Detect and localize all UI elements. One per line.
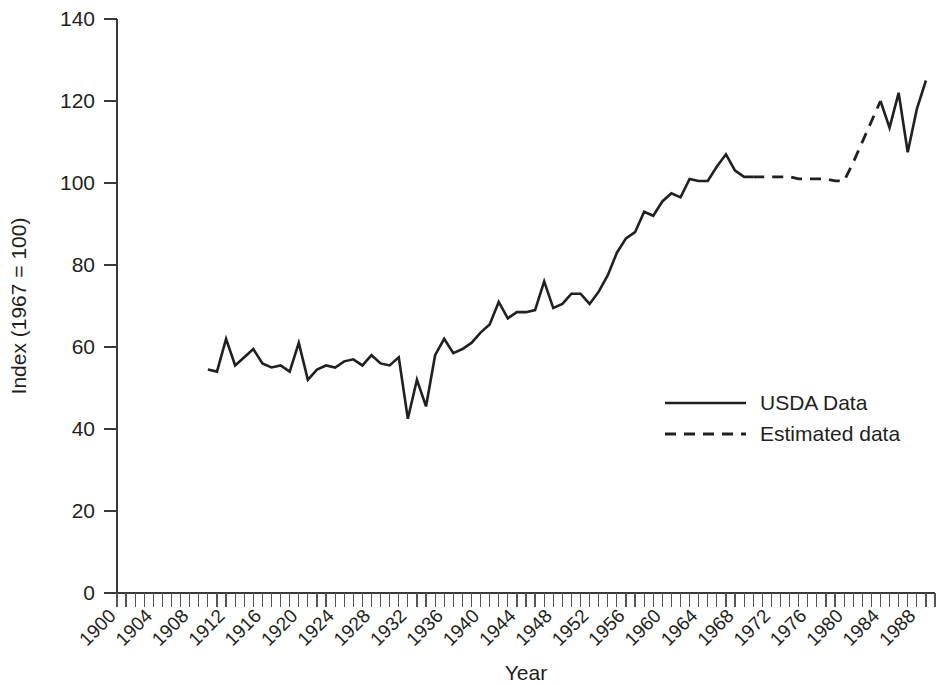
x-axis-tick-label: 1904 xyxy=(111,605,156,650)
x-axis-tick-label: 1912 xyxy=(184,605,229,650)
x-axis-tick-label-group: 1920 xyxy=(257,605,302,650)
x-axis-tick-label: 1988 xyxy=(875,605,920,650)
x-axis-tick-label-group: 1916 xyxy=(221,605,266,650)
chart-container: 020406080100120140 190019041908191219161… xyxy=(0,0,938,686)
y-axis-tick-label: 0 xyxy=(83,581,95,604)
y-axis-tick-label: 140 xyxy=(60,7,95,30)
x-axis-tick-label-group: 1988 xyxy=(875,605,920,650)
x-axis-tick-label-group: 1908 xyxy=(148,605,193,650)
x-axis-tick-label-group: 1904 xyxy=(111,605,156,650)
x-axis-tick-label: 1916 xyxy=(221,605,266,650)
y-axis-tick-label: 100 xyxy=(60,171,95,194)
x-axis-tick-label: 1956 xyxy=(584,605,629,650)
x-axis-tick-label: 1952 xyxy=(548,605,593,650)
x-axis-tick-label-group: 1980 xyxy=(802,605,847,650)
x-axis-tick-label: 1936 xyxy=(402,605,447,650)
data-series-group xyxy=(208,81,926,419)
x-axis-tick-label: 1944 xyxy=(475,605,520,650)
x-axis-tick-label-group: 1900 xyxy=(75,605,120,650)
x-axis-tick-label: 1928 xyxy=(330,605,375,650)
x-axis-tick-label: 1924 xyxy=(293,605,338,650)
x-axis-tick-label: 1908 xyxy=(148,605,193,650)
x-axis-tick-label: 1920 xyxy=(257,605,302,650)
x-axis-tick-label: 1960 xyxy=(620,605,665,650)
chart-legend: USDA DataEstimated data xyxy=(665,391,900,445)
x-axis-tick-label-group: 1976 xyxy=(766,605,811,650)
x-axis-tick-label: 1948 xyxy=(511,605,556,650)
legend-label-usda: USDA Data xyxy=(760,391,868,414)
x-axis-tick-label-group: 1956 xyxy=(584,605,629,650)
x-axis-tick-label: 1968 xyxy=(693,605,738,650)
y-axis-title-group: Index (1967 = 100) xyxy=(7,218,30,395)
y-axis-tick-label: 60 xyxy=(72,335,95,358)
x-axis-tick-label: 1976 xyxy=(766,605,811,650)
x-axis-tick-label-group: 1944 xyxy=(475,605,520,650)
x-axis: 1900190419081912191619201924192819321936… xyxy=(75,593,935,650)
x-axis-tick-label-group: 1928 xyxy=(330,605,375,650)
x-axis-tick-label: 1964 xyxy=(657,605,702,650)
y-axis-tick-label: 40 xyxy=(72,417,95,440)
x-axis-tick-label-group: 1968 xyxy=(693,605,738,650)
y-axis-tick-label: 20 xyxy=(72,499,95,522)
x-axis-tick-label: 1932 xyxy=(366,605,411,650)
x-axis-tick-label-group: 1912 xyxy=(184,605,229,650)
legend-label-estimated: Estimated data xyxy=(760,422,900,445)
x-axis-tick-label: 1984 xyxy=(839,605,884,650)
x-axis-tick-label-group: 1940 xyxy=(439,605,484,650)
x-axis-tick-label-group: 1932 xyxy=(366,605,411,650)
line-chart: 020406080100120140 190019041908191219161… xyxy=(0,0,938,686)
y-axis: 020406080100120140 xyxy=(60,7,117,604)
data-line-usda-2 xyxy=(880,81,925,153)
x-axis-tick-label: 1980 xyxy=(802,605,847,650)
y-axis-title: Index (1967 = 100) xyxy=(7,218,30,395)
x-axis-tick-label-group: 1948 xyxy=(511,605,556,650)
x-axis-tick-label-group: 1936 xyxy=(402,605,447,650)
x-axis-tick-label-group: 1924 xyxy=(293,605,338,650)
x-axis-tick-label: 1972 xyxy=(729,605,774,650)
data-line-estimated-1 xyxy=(753,101,880,181)
y-axis-tick-label: 80 xyxy=(72,253,95,276)
x-axis-tick-label-group: 1952 xyxy=(548,605,593,650)
x-axis-tick-label-group: 1964 xyxy=(657,605,702,650)
x-axis-tick-label: 1900 xyxy=(75,605,120,650)
x-axis-title: Year xyxy=(505,661,547,684)
x-axis-tick-label-group: 1960 xyxy=(620,605,665,650)
x-axis-tick-label-group: 1972 xyxy=(729,605,774,650)
x-axis-tick-label-group: 1984 xyxy=(839,605,884,650)
data-line-usda-0 xyxy=(208,154,753,418)
x-axis-tick-label: 1940 xyxy=(439,605,484,650)
y-axis-tick-label: 120 xyxy=(60,89,95,112)
